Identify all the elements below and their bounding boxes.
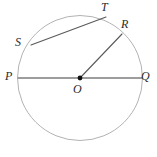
point-label-q: Q [141,70,150,82]
point-label-t: T [101,1,108,13]
circle-geometry-diagram: P Q S T R O [0,0,157,157]
radius-or-segment [80,34,122,78]
point-label-s: S [15,36,21,48]
point-label-o: O [73,83,82,95]
geometry-canvas [0,0,157,157]
center-point-dot [78,76,83,81]
point-label-r: R [121,18,128,30]
chord-st-segment [31,17,106,45]
point-label-p: P [5,70,12,82]
